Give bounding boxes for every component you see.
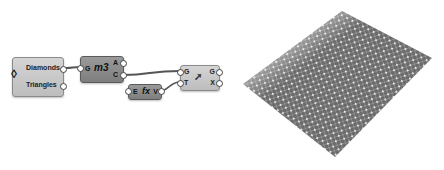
port-output-x[interactable] [216,80,223,87]
port-input-g[interactable] [77,65,84,72]
value-list-node[interactable]: ◊ Diamonds Triangles [12,57,64,97]
input-g: G [85,65,90,72]
fx-icon: fx [142,86,150,96]
output-x: X [210,79,215,86]
transform-icon: ➚ [194,71,202,82]
value-list-icon: ◊ [11,67,17,81]
port-input-e[interactable] [125,88,132,95]
port-output-g[interactable] [216,69,223,76]
output-a: A [113,59,118,66]
port-triangles[interactable] [60,83,67,90]
port-output-v[interactable] [158,88,165,95]
port-input-g[interactable] [177,69,184,76]
node-canvas[interactable]: ◊ Diamonds Triangles G m3 A C E fx V G T… [0,0,240,170]
3d-viewport[interactable] [240,0,444,170]
input-e: E [133,88,138,95]
port-diamonds[interactable] [60,66,67,73]
output-diamonds: Diamonds [26,64,60,71]
output-triangles: Triangles [26,81,57,88]
port-output-c[interactable] [120,72,127,79]
transform-node[interactable]: G T ➚ G X [180,65,220,91]
input-g: G [184,68,189,75]
output-c: C [113,71,118,78]
expression-node[interactable]: E fx V [128,84,162,100]
input-t: T [184,79,188,86]
patterned-surface [240,0,444,170]
port-output-a[interactable] [120,60,127,67]
mesh-node[interactable]: G m3 A C [80,56,124,83]
port-input-t[interactable] [177,80,184,87]
output-g: G [210,68,215,75]
mesh-icon: m3 [94,62,108,73]
